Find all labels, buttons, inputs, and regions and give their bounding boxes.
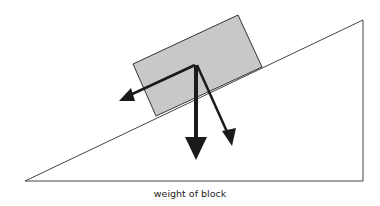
inclined-plane-diagram	[0, 0, 380, 206]
caption: weight of block	[0, 188, 380, 199]
